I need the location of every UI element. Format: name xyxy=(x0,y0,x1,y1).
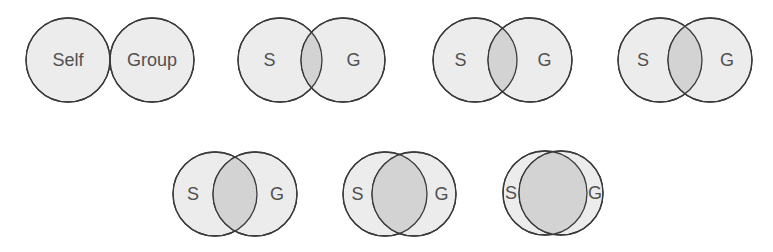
self-label: S xyxy=(351,184,363,204)
self-label: S xyxy=(637,50,649,70)
venn-pair-1: SelfGroup xyxy=(26,18,194,102)
group-label: G xyxy=(588,183,602,203)
group-label: Group xyxy=(127,50,177,70)
self-label: S xyxy=(454,50,466,70)
venn-diagram-sequence: SelfGroupSGSGSGSGSGSG xyxy=(0,0,773,252)
venn-pair-2: SG xyxy=(238,18,385,102)
self-label: S xyxy=(263,50,275,70)
group-label: G xyxy=(537,50,551,70)
group-label: G xyxy=(346,50,360,70)
venn-pair-4: SG xyxy=(618,18,752,102)
self-label: S xyxy=(187,184,199,204)
group-label: G xyxy=(720,50,734,70)
venn-pair-7: SG xyxy=(503,151,603,235)
group-label: G xyxy=(434,184,448,204)
venn-pair-3: SG xyxy=(433,18,572,102)
venn-pair-5: SG xyxy=(173,152,297,236)
self-label: S xyxy=(505,183,517,203)
self-label: Self xyxy=(52,50,84,70)
venn-pair-6: SG xyxy=(343,152,456,236)
group-label: G xyxy=(270,184,284,204)
